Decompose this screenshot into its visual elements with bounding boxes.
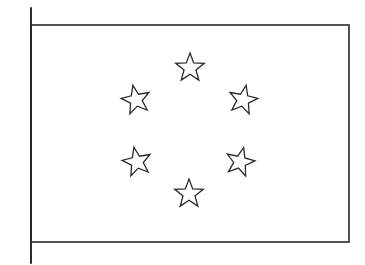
star-upper-left-icon bbox=[119, 82, 153, 114]
star-lower-right-icon bbox=[223, 144, 257, 177]
flag-cloth bbox=[31, 25, 349, 242]
star-upper-right-icon bbox=[227, 82, 261, 114]
star-ring bbox=[119, 53, 260, 206]
star-top-icon bbox=[176, 53, 205, 80]
star-lower-left-icon bbox=[120, 144, 154, 176]
flag-drawing bbox=[0, 0, 365, 265]
star-bottom-icon bbox=[175, 179, 204, 206]
